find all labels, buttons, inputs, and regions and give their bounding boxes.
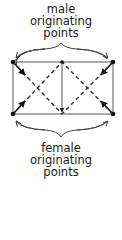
- top-right-diagonal-arrowhead-icon: [101, 63, 112, 75]
- top-right-brace-arrowhead-icon: [77, 49, 108, 58]
- bottom-right-diagonal-arrowhead-icon: [101, 101, 112, 113]
- top-right-point: [111, 60, 116, 65]
- bottom-right-brace-arrowhead-icon: [77, 121, 108, 130]
- top-left-brace-arrowhead-icon: [16, 49, 45, 58]
- bottom-left-diagonal-arrowhead-icon: [14, 101, 25, 113]
- top-left-point: [11, 60, 16, 65]
- top-middle-point: [60, 60, 64, 64]
- bottom-left-brace-arrowhead-icon: [16, 121, 45, 130]
- bottom-left-point: [11, 112, 16, 117]
- female-originating-points-label: female originating points: [0, 142, 122, 178]
- top-left-diagonal-arrowhead-icon: [14, 63, 25, 75]
- bottom-label-line-3: points: [0, 166, 122, 178]
- bottom-brace-arrows: [17, 121, 107, 137]
- bottom-right-point: [111, 112, 116, 117]
- outer-rectangle: [13, 62, 113, 114]
